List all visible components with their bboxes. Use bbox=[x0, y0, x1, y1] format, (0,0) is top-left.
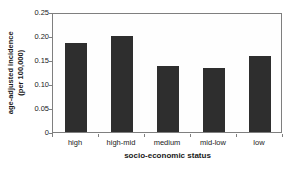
y-tick-label: 0.10 bbox=[22, 81, 49, 89]
y-tick-mark bbox=[49, 13, 53, 14]
y-axis-title: age-adjusted incidence (per 100,000) bbox=[0, 13, 30, 133]
y-tick-mark bbox=[49, 61, 53, 62]
x-tick-mark bbox=[282, 134, 283, 137]
x-tick-label-high-mid: high-mid bbox=[98, 139, 144, 147]
x-tick-mark bbox=[144, 134, 145, 137]
y-tick-mark bbox=[49, 37, 53, 38]
x-tick-label-medium: medium bbox=[144, 139, 190, 147]
x-tick-mark bbox=[236, 134, 237, 137]
bar-medium bbox=[157, 66, 179, 132]
y-tick-label: 0.05 bbox=[22, 105, 49, 113]
plot-area bbox=[52, 13, 282, 133]
x-tick-mark bbox=[52, 134, 53, 137]
x-tick-label-mid-low: mid-low bbox=[190, 139, 236, 147]
bar-low bbox=[249, 56, 271, 132]
y-tick-label: 0 bbox=[22, 129, 49, 137]
y-tick-label: 0.20 bbox=[22, 33, 49, 41]
x-tick-label-low: low bbox=[236, 139, 282, 147]
bar-high bbox=[65, 43, 87, 132]
x-tick-mark bbox=[98, 134, 99, 137]
y-axis-title-line2: (per 100,000) bbox=[15, 32, 25, 115]
bar-mid-low bbox=[203, 68, 225, 132]
y-axis-title-line1: age-adjusted incidence bbox=[5, 32, 15, 115]
bar-chart-figure: age-adjusted incidence (per 100,000) soc… bbox=[0, 0, 290, 179]
bar-high-mid bbox=[111, 36, 133, 132]
x-tick-mark bbox=[190, 134, 191, 137]
y-tick-mark bbox=[49, 85, 53, 86]
y-tick-mark bbox=[49, 109, 53, 110]
y-tick-label: 0.25 bbox=[22, 9, 49, 17]
y-tick-label: 0.15 bbox=[22, 57, 49, 65]
x-axis-title: socio-economic status bbox=[52, 151, 283, 160]
x-tick-label-high: high bbox=[52, 139, 98, 147]
